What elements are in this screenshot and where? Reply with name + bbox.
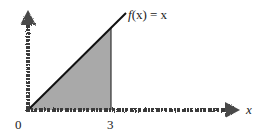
x-axis-arrow-icon	[225, 102, 240, 118]
y-axis	[20, 10, 36, 112]
area-under-line-figure: f(x) = x x 0 3	[0, 0, 265, 138]
y-axis-arrow-icon	[20, 10, 36, 25]
x-axis-label: x	[245, 102, 252, 117]
function-label: f(x) = x	[128, 7, 168, 22]
tick-label-3: 3	[107, 117, 114, 132]
origin-label: 0	[15, 117, 22, 132]
